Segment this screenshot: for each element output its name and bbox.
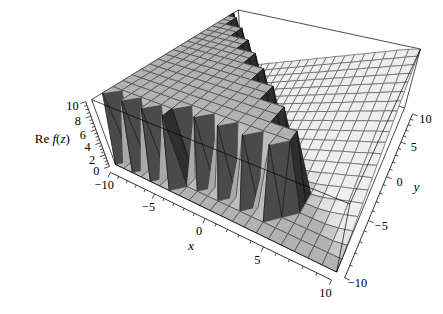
x-axis-tick-label: 5 bbox=[254, 253, 260, 267]
x-axis-title: x bbox=[187, 238, 194, 253]
y-axis-tick-label: −5 bbox=[375, 219, 388, 233]
y-axis-tick-label: 5 bbox=[411, 140, 417, 154]
y-axis-tick-label: −10 bbox=[348, 276, 367, 290]
z-axis-title: Re f(z) bbox=[35, 131, 70, 146]
x-axis-tick-label: 10 bbox=[319, 286, 331, 300]
y-axis-tick-label: 10 bbox=[419, 112, 431, 126]
surface-plot-canvas: −10−50510−10−505100246810xyRe f(z) bbox=[0, 0, 443, 314]
y-axis-title: y bbox=[412, 179, 420, 194]
x-axis-tick-label: −10 bbox=[95, 178, 114, 192]
y-axis-tick-label: 0 bbox=[396, 175, 402, 189]
z-axis-tick-label: 4 bbox=[84, 140, 90, 154]
x-axis-tick-label: −5 bbox=[142, 200, 155, 214]
z-axis-tick-label: 2 bbox=[89, 153, 95, 167]
figure-3d-plot: −10−50510−10−505100246810xyRe f(z) bbox=[0, 0, 443, 314]
z-axis-tick-label: 10 bbox=[66, 99, 78, 113]
z-axis-tick-label: 6 bbox=[80, 128, 86, 142]
z-axis-tick-label: 8 bbox=[75, 114, 81, 128]
x-axis-tick-label: 0 bbox=[196, 224, 202, 238]
